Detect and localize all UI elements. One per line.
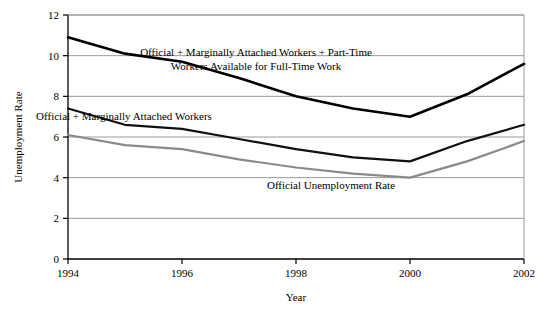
x-tick-label-1998: 1998 xyxy=(285,267,308,279)
y-tick-label-4: 4 xyxy=(54,172,60,184)
y-tick-label-8: 8 xyxy=(54,90,60,102)
y-tick-label-2: 2 xyxy=(54,212,60,224)
x-tick-label-1994: 1994 xyxy=(57,267,80,279)
annotation-middle: Official + Marginally Attached Workers xyxy=(36,110,212,122)
y-axis-title: Unemployment Rate xyxy=(12,91,24,182)
x-tick-label-1996: 1996 xyxy=(171,267,194,279)
y-tick-label-10: 10 xyxy=(48,50,60,62)
x-tick-label-2000: 2000 xyxy=(399,267,422,279)
annotation-bottom: Official Unemployment Rate xyxy=(267,179,395,191)
x-axis-title: Year xyxy=(286,291,307,303)
x-tick-label-2002: 2002 xyxy=(513,267,535,279)
unemployment-rate-line-chart: 024681012 19941996199820002002 Official … xyxy=(0,0,545,313)
chart-figure: 024681012 19941996199820002002 Official … xyxy=(0,0,545,313)
y-tick-label-6: 6 xyxy=(54,131,60,143)
y-tick-label-0: 0 xyxy=(54,253,60,265)
y-tick-label-12: 12 xyxy=(48,9,59,21)
